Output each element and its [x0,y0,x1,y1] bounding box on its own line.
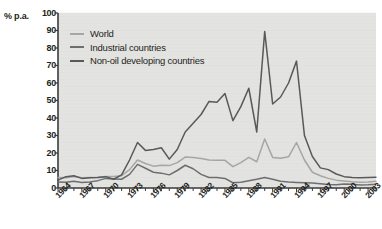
inflation-rate-line-chart: % p.a. 0102030405060708090100 1964196719… [0,0,382,229]
legend-label: World [90,28,114,39]
legend-swatch-icon [70,46,84,48]
legend-item-non-oil-developing-countries[interactable]: Non-oil developing countries [70,55,204,66]
legend-item-industrial-countries[interactable]: Industrial countries [70,42,166,53]
plot-area [0,0,382,229]
legend-swatch-icon [70,33,84,35]
legend-label: Non-oil developing countries [90,55,204,66]
legend-swatch-icon [70,60,84,62]
legend-item-world[interactable]: World [70,28,114,39]
legend-label: Industrial countries [90,42,166,53]
